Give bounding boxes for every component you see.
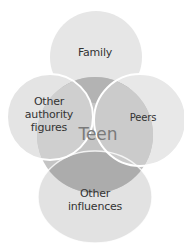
teen-label: Teen: [66, 124, 130, 144]
peers-label-text: Peers: [130, 112, 156, 123]
influences-label: Other influences: [45, 187, 145, 213]
influences-label-line-2: influences: [45, 200, 145, 213]
authority-label-line-1: Other: [10, 95, 88, 108]
influences-label-line-1: Other: [45, 187, 145, 200]
influence-diagram: Family Other authority figures Peers Oth…: [0, 0, 184, 250]
authority-label-line-2: authority: [10, 108, 88, 121]
family-label-text: Family: [78, 46, 112, 59]
family-label: Family: [65, 46, 125, 59]
peers-label: Peers: [118, 111, 168, 124]
teen-label-text: Teen: [78, 124, 117, 144]
